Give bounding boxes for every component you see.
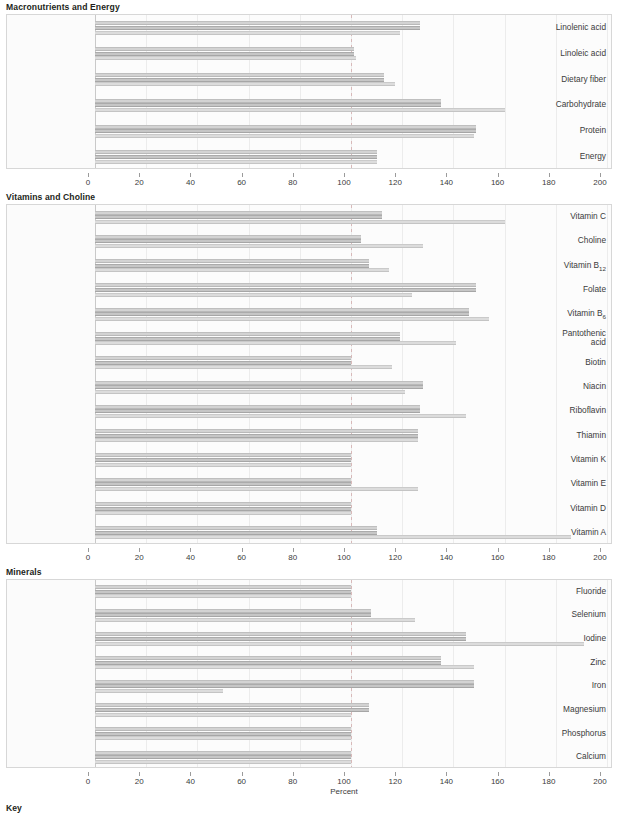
x-axis-minerals: 020406080100120140160180200: [0, 772, 618, 792]
bar-group: [95, 278, 607, 302]
x-tick: [549, 173, 550, 177]
x-tick-label: 120: [389, 178, 402, 187]
bar-series2: [95, 26, 420, 30]
x-tick: [600, 772, 601, 776]
bar-series3: [95, 689, 223, 693]
bar-series2: [95, 458, 351, 462]
bar-group: [95, 67, 607, 93]
x-tick-label: 100: [337, 777, 350, 786]
key-title: Key: [6, 803, 22, 813]
bar-series3: [95, 134, 474, 138]
bar-series2: [95, 684, 474, 688]
x-tick: [190, 548, 191, 552]
x-tick-label: 120: [389, 777, 402, 786]
x-tick-label: 60: [237, 553, 246, 562]
x-axis-macronutrients: 020406080100120140160180200: [0, 173, 618, 193]
panel-minerals: CalciumPhosphorusMagnesiumIronZincIodine…: [6, 579, 612, 768]
bar-series3: [95, 56, 356, 60]
bar-series2: [95, 264, 369, 268]
bar-group: [95, 448, 607, 472]
bar-group: [95, 722, 607, 746]
bar-series3: [95, 341, 456, 345]
bar-series2: [95, 637, 466, 641]
bar-series3: [95, 244, 423, 248]
bar-group: [95, 604, 607, 628]
bar-series2: [95, 337, 400, 341]
section-title-vitamins: Vitamins and Choline: [6, 192, 618, 202]
bar-series3: [95, 535, 571, 539]
x-tick-label: 60: [237, 777, 246, 786]
bar-group: [95, 93, 607, 119]
bar-series3: [95, 293, 412, 297]
bar-group: [95, 302, 607, 326]
gridline-200: [607, 205, 608, 543]
bar-group: [95, 745, 607, 769]
x-tick-label: 100: [337, 178, 350, 187]
bar-series3: [95, 108, 505, 112]
x-tick-label: 20: [135, 553, 144, 562]
x-tick-label: 80: [288, 553, 297, 562]
bar-series3: [95, 82, 395, 86]
x-tick-label: 40: [186, 553, 195, 562]
x-tick-label: 200: [593, 553, 606, 562]
bar-group: [95, 15, 607, 41]
x-tick-label: 60: [237, 178, 246, 187]
bar-series3: [95, 463, 351, 467]
x-tick: [600, 173, 601, 177]
bar-series3: [95, 760, 351, 764]
bar-group: [95, 675, 607, 699]
nutrient-percent-chart-page: Macronutrients and Energy EnergyProteinC…: [0, 0, 618, 817]
bar-group: [95, 118, 607, 144]
bar-series2: [95, 531, 377, 535]
bar-series1: [95, 47, 354, 51]
bar-series2: [95, 708, 369, 712]
panel-macronutrients: EnergyProteinCarbohydrateDietary fiberLi…: [6, 14, 612, 169]
x-tick-label: 180: [542, 553, 555, 562]
x-tick-label: 80: [288, 777, 297, 786]
bar-group: [95, 627, 607, 651]
bar-group: [95, 41, 607, 67]
bar-series1: [95, 381, 423, 385]
x-tick: [395, 173, 396, 177]
x-tick: [600, 548, 601, 552]
x-tick-label: 180: [542, 777, 555, 786]
bar-series3: [95, 511, 351, 515]
bar-group: [95, 144, 607, 170]
bar-series1: [95, 680, 474, 684]
bar-series1: [95, 585, 351, 589]
bar-group: [95, 521, 607, 545]
bar-series1: [95, 125, 476, 129]
bar-series2: [95, 312, 469, 316]
x-tick-label: 40: [186, 178, 195, 187]
x-axis-vitamins: 020406080100120140160180200: [0, 548, 618, 568]
bar-series1: [95, 656, 441, 660]
x-tick-label: 160: [491, 777, 504, 786]
bar-group: [95, 254, 607, 278]
bar-series3: [95, 665, 474, 669]
bar-series1: [95, 356, 351, 360]
bar-series3: [95, 642, 584, 646]
section-minerals: Minerals CalciumPhosphorusMagnesiumIronZ…: [0, 567, 618, 768]
bar-series1: [95, 526, 377, 530]
bar-series2: [95, 590, 351, 594]
bar-series3: [95, 487, 418, 491]
x-tick: [498, 548, 499, 552]
bar-series1: [95, 21, 420, 25]
bar-group: [95, 496, 607, 520]
bar-series1: [95, 478, 351, 482]
x-tick-label: 200: [593, 777, 606, 786]
x-tick: [88, 548, 89, 552]
x-tick-label: 120: [389, 553, 402, 562]
x-tick: [139, 548, 140, 552]
x-tick: [139, 772, 140, 776]
x-tick: [242, 548, 243, 552]
bar-series1: [95, 727, 351, 731]
bar-group: [95, 651, 607, 675]
x-tick-label: 200: [593, 178, 606, 187]
bar-series3: [95, 317, 489, 321]
bar-group: [95, 375, 607, 399]
x-tick: [395, 772, 396, 776]
bar-series1: [95, 609, 371, 613]
bar-series2: [95, 52, 354, 56]
x-tick-label: 180: [542, 178, 555, 187]
